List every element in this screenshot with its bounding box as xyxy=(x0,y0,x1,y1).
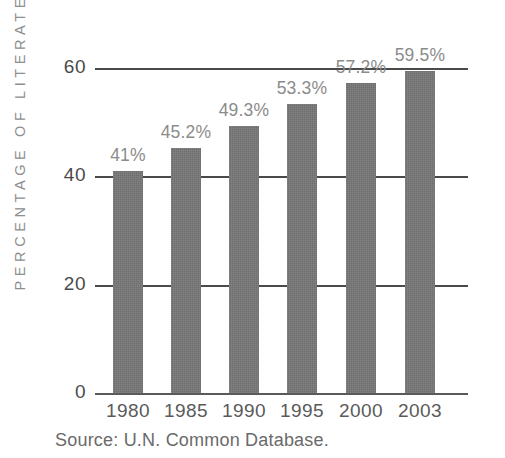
bar-2000[interactable] xyxy=(346,83,376,393)
y-tick-label-20: 20 xyxy=(44,273,86,295)
x-tick-label-2003: 2003 xyxy=(391,400,449,422)
bar-1980[interactable] xyxy=(113,171,143,393)
y-tick-label-0: 0 xyxy=(44,381,86,403)
bar-1985[interactable] xyxy=(171,148,201,393)
chart-screenshot: PERCENTAGE OF LITERATE 60 40 20 0 41% 45… xyxy=(0,0,505,458)
source-note: Source: U.N. Common Database. xyxy=(55,430,329,451)
bar-value-1995: 53.3% xyxy=(259,78,345,99)
bar-value-1990: 49.3% xyxy=(201,100,287,121)
bar-value-1985: 45.2% xyxy=(143,122,229,143)
x-tick-label-1980: 1980 xyxy=(99,400,157,422)
y-tick-label-40: 40 xyxy=(44,164,86,186)
bar-1995[interactable] xyxy=(287,104,317,393)
bar-2003[interactable] xyxy=(405,71,435,393)
plot-area: 60 40 20 0 41% 45.2% 49.3% 53.3% 57.2% 5… xyxy=(0,0,505,458)
x-tick-label-1990: 1990 xyxy=(215,400,273,422)
bar-value-1980: 41% xyxy=(85,145,171,166)
x-tick-label-1985: 1985 xyxy=(157,400,215,422)
bar-1990[interactable] xyxy=(229,126,259,393)
axis-baseline-0 xyxy=(95,393,468,395)
y-tick-label-60: 60 xyxy=(44,56,86,78)
bar-value-2003: 59.5% xyxy=(377,45,463,66)
x-tick-label-1995: 1995 xyxy=(273,400,331,422)
gridline-60 xyxy=(95,68,468,70)
x-tick-label-2000: 2000 xyxy=(332,400,390,422)
